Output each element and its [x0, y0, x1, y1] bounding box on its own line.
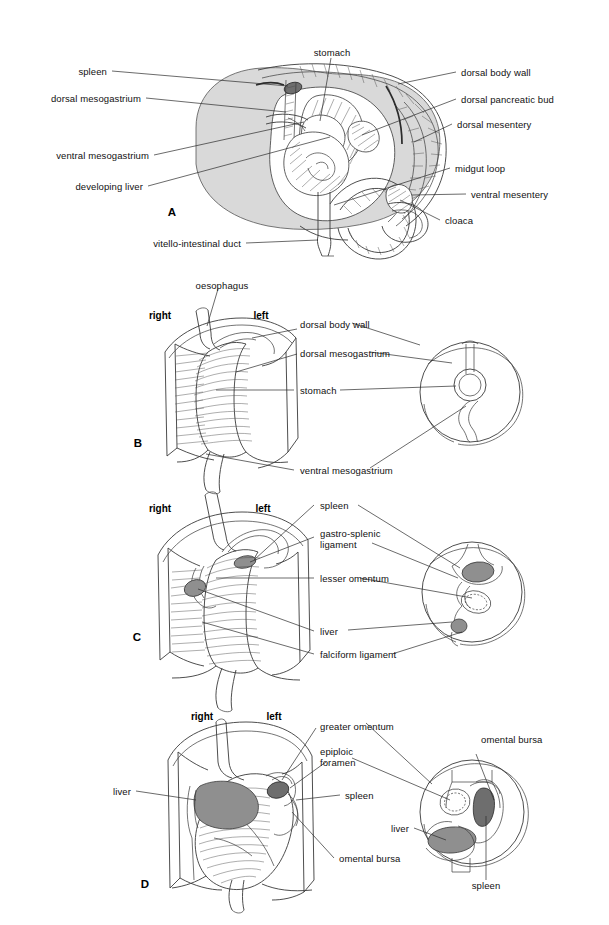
panel-id-a: A [168, 206, 176, 218]
panel-a-illustration [196, 64, 446, 259]
panel-d-label-liver: liver [113, 786, 131, 797]
panel-d-section-label-omental-bursa: omental bursa [481, 734, 543, 745]
panel-c-label-liver: liver [320, 626, 338, 637]
panel-c-illustration [158, 492, 525, 712]
panel-b-label-stomach: stomach [300, 385, 337, 396]
panel-b-label-oesophagus: oesophagus [196, 280, 249, 291]
panel-b-label-ventral-mesogastrium: ventral mesogastrium [300, 465, 393, 476]
panel-d-label-spleen: spleen [345, 790, 374, 801]
panel-id-c: C [133, 631, 141, 643]
panel-d-side-left: left [267, 711, 282, 722]
panel-d-section-label-spleen: spleen [472, 880, 501, 891]
panel-id-d: D [141, 878, 149, 890]
panel-d-label-epiploic-foramen: epiploic foramen [320, 746, 356, 768]
panel-c-side-left: left [256, 503, 271, 514]
panel-a-label-dorsal-body-wall: dorsal body wall [461, 67, 531, 78]
panel-d-label-omental-bursa: omental bursa [339, 853, 401, 864]
panel-a-label-dorsal-mesogastrium: dorsal mesogastrium [51, 93, 141, 104]
panel-a-label-cloaca: cloaca [445, 215, 473, 226]
panel-b-label-dorsal-mesogastrium: dorsal mesogastrium [300, 348, 390, 359]
panel-b-label-dorsal-body-wall: dorsal body wall [300, 319, 370, 330]
panel-d-label-greater-omentum: greater omentum [320, 721, 394, 732]
panel-c-label-gastro-splenic-ligament: gastro-splenic ligament [320, 528, 381, 550]
panel-a-label-developing-liver: developing liver [75, 181, 143, 192]
panel-b-side-right: right [149, 310, 171, 321]
panel-id-b: B [134, 437, 142, 449]
figure-canvas [0, 0, 609, 925]
panel-d-side-right: right [191, 711, 213, 722]
panel-c-side-right: right [149, 503, 171, 514]
panel-a-label-dorsal-mesentery: dorsal mesentery [457, 119, 531, 130]
panel-a-label-vitello-intestinal-duct: vitello-intestinal duct [153, 238, 241, 249]
panel-b-side-left: left [254, 310, 269, 321]
panel-a-label-midgut-loop: midgut loop [455, 163, 505, 174]
panel-a-label-dorsal-pancreatic-bud: dorsal pancreatic bud [461, 94, 554, 105]
panel-c-label-spleen: spleen [320, 500, 349, 511]
anatomy-figure: stomach spleen dorsal mesogastrium ventr… [0, 0, 609, 925]
panel-a-label-spleen: spleen [78, 66, 107, 77]
panel-d-section-label-liver: liver [391, 823, 409, 834]
panel-a-label-ventral-mesogastrium: ventral mesogastrium [56, 150, 149, 161]
panel-c-label-lesser-omentum: lesser omentum [320, 573, 389, 584]
panel-a-label-ventral-mesentery: ventral mesentery [471, 189, 548, 200]
panel-a-label-stomach: stomach [314, 47, 351, 58]
panel-c-label-falciform-ligament: falciform ligament [320, 649, 396, 660]
